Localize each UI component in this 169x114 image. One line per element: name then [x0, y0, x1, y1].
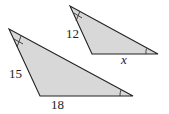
large-left-side-label: 15 — [9, 66, 22, 81]
similar-triangles-diagram: 12 x 15 18 — [0, 0, 169, 114]
small-left-side-label: 12 — [66, 26, 79, 41]
small-bottom-side-label: x — [120, 52, 127, 67]
small-triangle-shape — [70, 6, 158, 54]
small-triangle: 12 x — [66, 6, 158, 67]
large-bottom-side-label: 18 — [51, 97, 64, 112]
